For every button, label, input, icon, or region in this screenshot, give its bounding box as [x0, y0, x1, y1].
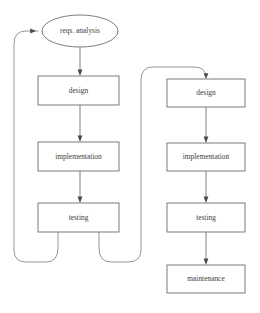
edge-design-to-implementation-left-arrowhead: [78, 136, 83, 142]
node-implementation-right-label: implementation: [183, 152, 230, 161]
node-requirements-analysis-label: reqs. analysis: [60, 26, 100, 35]
node-design-left-label: design: [69, 86, 89, 95]
edge-requirements-to-design-arrowhead: [78, 70, 83, 76]
node-testing-left-label: testing: [69, 213, 89, 222]
node-testing-right-label: testing: [196, 213, 216, 222]
edge-testing-to-maintenance-arrowhead: [204, 259, 209, 265]
node-implementation-left-label: implementation: [55, 152, 102, 161]
loop-testing-to-design-right-arrowhead: [204, 73, 209, 79]
edge-implementation-to-testing-right-arrowhead: [204, 197, 209, 203]
edge-design-to-implementation-right-arrowhead: [204, 137, 209, 143]
node-maintenance-label: maintenance: [187, 274, 225, 283]
waterfall-diagram: reqs. analysis design implementation tes…: [0, 0, 260, 313]
diagram-canvas: reqs. analysis design implementation tes…: [0, 0, 260, 313]
loop-testing-to-requirements-arrowhead: [30, 29, 36, 34]
node-design-right-label: design: [196, 88, 216, 97]
edge-implementation-to-testing-left-arrowhead: [78, 197, 83, 203]
